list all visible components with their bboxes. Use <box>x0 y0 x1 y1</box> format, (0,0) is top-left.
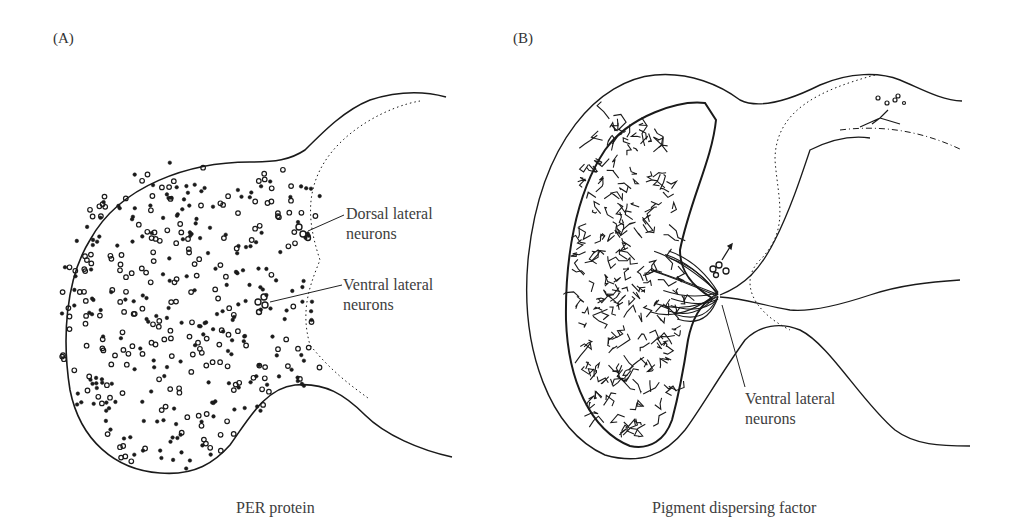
panel-a-caption: PER protein <box>236 499 315 517</box>
panel-b-fiber-lower <box>720 280 960 310</box>
annotation-line2: neurons <box>346 224 433 244</box>
per-protein-dots <box>60 161 322 470</box>
annotation-line2: neurons <box>343 295 433 315</box>
annotation-line1: Ventral lateral <box>745 389 835 409</box>
annotation-line1: Dorsal lateral <box>346 204 433 224</box>
panel-a-label: (A) <box>53 30 74 47</box>
dorsal-terminal-cells-b <box>860 94 906 127</box>
annotation-line2: neurons <box>745 409 835 429</box>
annotation-ventral-lateral-b: Ventral lateral neurons <box>745 389 835 429</box>
panel-b-caption: Pigment dispersing factor <box>652 499 816 517</box>
figure-canvas <box>0 0 1020 531</box>
pdf-fiber-network <box>563 102 718 438</box>
ventral-leader-line-a <box>270 285 342 302</box>
panel-b-dash-dot <box>840 128 962 150</box>
annotation-line1: Ventral lateral <box>343 275 433 295</box>
panel-b-dotted-boundary <box>750 75 875 330</box>
annotation-dorsal-lateral-a: Dorsal lateral neurons <box>346 204 433 244</box>
panel-a-dotted-boundary <box>306 101 420 398</box>
panel-b-label: (B) <box>513 30 533 47</box>
annotation-ventral-lateral-a: Ventral lateral neurons <box>343 275 433 315</box>
panel-b-fiber-upper <box>720 137 870 295</box>
ventral-lateral-cells-b <box>710 244 732 278</box>
